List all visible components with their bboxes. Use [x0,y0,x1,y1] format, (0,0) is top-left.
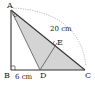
label-ac-length: 20 cm [50,25,72,33]
geometry-diagram: A B C D E 20 cm 6 cm [0,0,95,88]
label-b: B [4,71,10,80]
label-c: C [85,71,91,80]
label-bd-length: 6 cm [15,73,33,81]
label-e: E [57,38,63,47]
right-angle-b-icon [11,66,15,70]
label-d: D [40,71,46,80]
label-a: A [6,1,13,10]
